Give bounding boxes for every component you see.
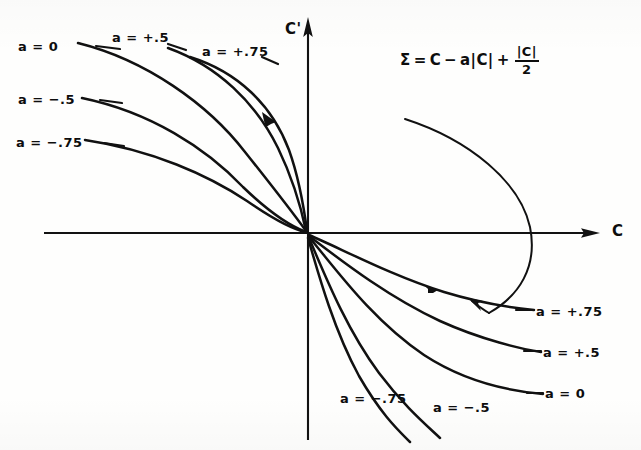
curve-label-a-minus-075-lower: a = −.75: [340, 392, 407, 405]
separatrix-group: [405, 119, 532, 313]
equation-plus: +: [497, 51, 510, 69]
curve-label-a-plus-075-upper: a = +.75: [202, 45, 269, 58]
upper-left-curve-fan: [78, 43, 307, 232]
curve-a-minus-05-lower: [309, 238, 440, 438]
curve-a-plus-05-lower: [309, 236, 541, 352]
curve-a-plus-075-lower: [309, 235, 534, 310]
equation-minus: −: [444, 51, 457, 69]
curve-label-a-plus-075-lower: a = +.75: [536, 305, 603, 318]
equation-term-c: C: [430, 51, 441, 69]
phase-plane-plot: [0, 0, 641, 450]
equation-fraction-numerator: |C|: [515, 45, 539, 62]
figure-root: C' C a = 0 a = −.5 a = −.75 a = +.5 a = …: [0, 0, 641, 450]
curve-label-a-0-upper: a = 0: [18, 40, 58, 53]
equation-lhs: Σ: [400, 51, 411, 69]
equation-term-a-abs-c: a|C|: [460, 51, 494, 69]
curve-label-a-plus-05-lower: a = +.5: [543, 346, 600, 359]
separatrix-parabola: [405, 119, 532, 313]
equation-fraction-denominator: 2: [522, 62, 531, 77]
lower-right-curve-fan: [308, 235, 543, 442]
curve-a-plus-075-upper: [190, 57, 307, 231]
label-leader-lines: [96, 44, 543, 393]
equation-fraction: |C| 2: [515, 45, 539, 76]
axis-group: [44, 17, 600, 440]
curve-label-a-minus-075-upper: a = −.75: [16, 136, 83, 149]
x-axis-label: C: [612, 224, 624, 239]
y-axis-label: C': [285, 22, 302, 37]
equation-sigma: Σ = C − a|C| + |C| 2: [400, 44, 539, 75]
curve-label-a-plus-05-upper: a = +.5: [112, 31, 169, 44]
curve-label-a-0-lower: a = 0: [545, 387, 585, 400]
separatrix-arrowhead: [468, 298, 483, 311]
equation-equals: =: [414, 51, 427, 69]
curve-label-a-minus-05-lower: a = −.5: [433, 401, 490, 414]
curve-label-a-minus-05-upper: a = −.5: [18, 93, 75, 106]
